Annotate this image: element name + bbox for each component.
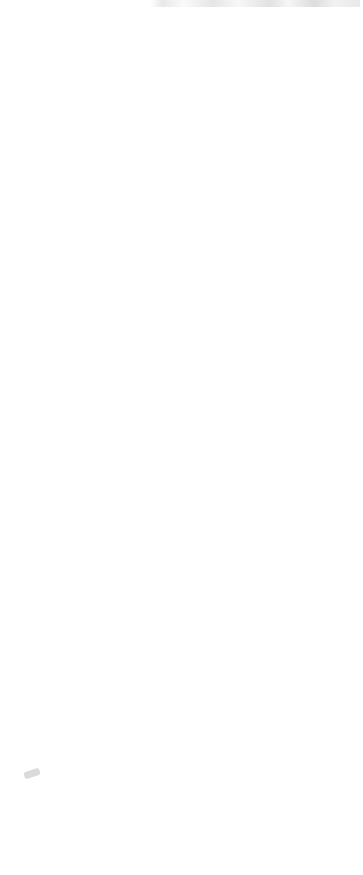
- flow-connectors: [0, 0, 363, 875]
- flowchart-canvas: [0, 0, 363, 875]
